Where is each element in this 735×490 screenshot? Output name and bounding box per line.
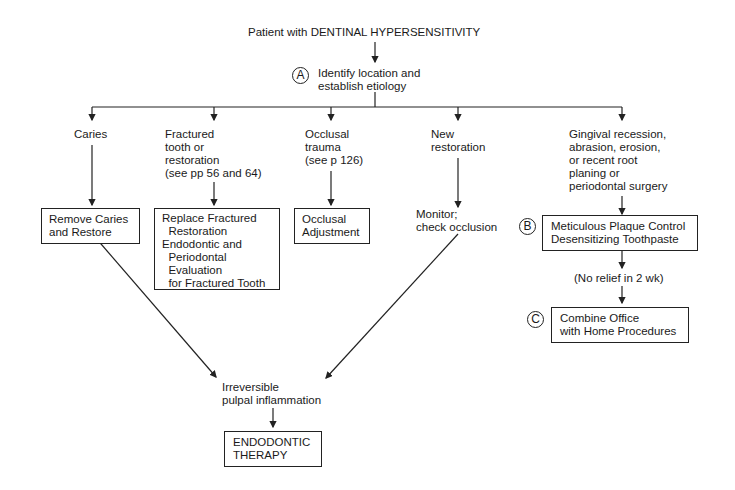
occlusal-adjustment-text: Occlusal Adjustment bbox=[302, 213, 360, 239]
occlusal-adjustment-box: Occlusal Adjustment bbox=[294, 208, 370, 244]
endodontic-therapy-text: ENDODONTIC THERAPY bbox=[233, 436, 310, 462]
step-a-text: Identify location and establish etiology bbox=[318, 67, 420, 93]
combine-procedures-box: Combine Office with Home Procedures bbox=[551, 307, 689, 343]
replace-fractured-text: Replace Fractured Restoration Endodontic… bbox=[162, 212, 265, 290]
remove-caries-text: Remove Caries and Restore bbox=[49, 213, 128, 239]
pulpal-inflammation-text: Irreversible pulpal inflammation bbox=[222, 381, 321, 407]
plaque-control-box: Meticulous Plaque Control Desensitizing … bbox=[542, 215, 698, 251]
replace-fractured-box: Replace Fractured Restoration Endodontic… bbox=[154, 208, 280, 290]
remove-caries-box: Remove Caries and Restore bbox=[41, 208, 140, 244]
combine-procedures-text: Combine Office with Home Procedures bbox=[560, 312, 676, 338]
marker-a: A bbox=[292, 67, 309, 84]
branch-new-restoration: New restoration bbox=[431, 128, 485, 154]
plaque-control-text: Meticulous Plaque Control Desensitizing … bbox=[551, 220, 685, 246]
marker-c: C bbox=[527, 311, 544, 328]
marker-b: B bbox=[519, 218, 536, 235]
no-relief-text: (No relief in 2 wk) bbox=[574, 272, 663, 285]
start-node: Patient with DENTINAL HYPERSENSITIVITY bbox=[248, 26, 480, 39]
branch-caries: Caries bbox=[74, 128, 107, 141]
monitor-occlusion-text: Monitor; check occlusion bbox=[416, 208, 497, 234]
branch-gingival-recession: Gingival recession, abrasion, erosion, o… bbox=[569, 128, 667, 193]
endodontic-therapy-box: ENDODONTIC THERAPY bbox=[224, 431, 322, 467]
branch-occlusal-trauma: Occlusal trauma (see p 126) bbox=[305, 128, 363, 167]
branch-fractured: Fractured tooth or restoration (see pp 5… bbox=[165, 128, 262, 180]
